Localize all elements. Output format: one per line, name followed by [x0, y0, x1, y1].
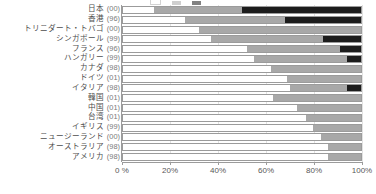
category-name: 日本: [88, 5, 104, 13]
bar-segment[interactable]: [313, 125, 361, 131]
bar-segment[interactable]: [285, 17, 361, 23]
bar-segment[interactable]: [328, 144, 361, 150]
category-name: シンガポール: [56, 35, 104, 43]
bar-segment[interactable]: [154, 7, 242, 13]
bar-segment[interactable]: [290, 85, 347, 91]
bar-segment[interactable]: [123, 154, 328, 160]
category-label: 中国(01): [88, 104, 120, 112]
bar-segment[interactable]: [347, 56, 361, 62]
category-year: (01): [107, 113, 120, 121]
bar-segment[interactable]: [123, 144, 328, 150]
bar-segment[interactable]: [123, 7, 154, 13]
category-name: イタリア: [72, 84, 104, 92]
x-axis-tick: [218, 162, 219, 165]
bar-segment[interactable]: [185, 17, 285, 23]
stacked-bar-chart: 日本(00)香港(96)トリニダート・トバゴ(00)シンガポール(99)フランス…: [0, 0, 376, 194]
category-name: 台湾: [88, 113, 104, 121]
category-name: トリニダート・トバゴ: [24, 25, 104, 33]
category-year: (01): [107, 74, 120, 82]
bar-segment[interactable]: [242, 7, 361, 13]
bar-segment[interactable]: [199, 27, 361, 33]
category-year: (98): [107, 153, 120, 161]
bar-segment[interactable]: [123, 134, 321, 140]
bar-segment[interactable]: [273, 95, 361, 101]
bar-row[interactable]: [122, 26, 362, 34]
bar-segment[interactable]: [123, 46, 247, 52]
category-label: ドイツ(01): [80, 74, 120, 82]
x-axis-tick-label: 40%: [210, 166, 226, 176]
category-year: (96): [107, 15, 120, 23]
category-name: 韓国: [88, 94, 104, 102]
bar-segment[interactable]: [306, 115, 361, 121]
category-year: (99): [107, 123, 120, 131]
category-year: (98): [107, 84, 120, 92]
bar-segment[interactable]: [321, 134, 361, 140]
plot-area: [122, 5, 362, 162]
category-name: 中国: [88, 104, 104, 112]
category-label: 韓国(01): [88, 94, 120, 102]
bar-row[interactable]: [122, 16, 362, 24]
category-year: (99): [107, 54, 120, 62]
bar-segment[interactable]: [123, 85, 290, 91]
category-label: カナダ(98): [80, 64, 120, 72]
category-name: オーストラリア: [48, 143, 104, 151]
category-label: ニュージーランド(00): [40, 133, 120, 141]
x-axis-tick: [362, 162, 363, 165]
category-label: 香港(96): [88, 15, 120, 23]
bar-row[interactable]: [122, 94, 362, 102]
category-axis-labels: 日本(00)香港(96)トリニダート・トバゴ(00)シンガポール(99)フランス…: [0, 5, 120, 162]
category-label: 日本(00): [88, 5, 120, 13]
bar-row[interactable]: [122, 65, 362, 73]
bar-segment[interactable]: [123, 76, 287, 82]
bar-segment[interactable]: [247, 46, 340, 52]
bar-row[interactable]: [122, 35, 362, 43]
bar-segment[interactable]: [287, 76, 361, 82]
bar-row[interactable]: [122, 55, 362, 63]
bar-row[interactable]: [122, 6, 362, 14]
bar-row[interactable]: [122, 75, 362, 83]
bar-segment[interactable]: [211, 36, 323, 42]
category-label: シンガポール(99): [56, 35, 120, 43]
bar-row[interactable]: [122, 45, 362, 53]
category-year: (00): [107, 5, 120, 13]
bar-segment[interactable]: [123, 36, 211, 42]
bar-segment[interactable]: [123, 17, 185, 23]
bar-segment[interactable]: [123, 105, 297, 111]
bar-segment[interactable]: [297, 105, 361, 111]
category-name: ドイツ: [80, 74, 104, 82]
category-name: フランス: [72, 45, 104, 53]
bar-segment[interactable]: [271, 66, 361, 72]
category-year: (01): [107, 94, 120, 102]
bar-segment[interactable]: [340, 46, 361, 52]
bar-row[interactable]: [122, 133, 362, 141]
bar-segment[interactable]: [123, 125, 313, 131]
category-label: アメリカ(98): [72, 153, 120, 161]
category-name: アメリカ: [72, 153, 104, 161]
category-label: イタリア(98): [72, 84, 120, 92]
bar-segment[interactable]: [123, 56, 254, 62]
bar-segment[interactable]: [123, 66, 271, 72]
category-label: ハンガリー(99): [64, 54, 120, 62]
bar-segment[interactable]: [123, 95, 273, 101]
x-axis-tick-label: 80%: [306, 166, 322, 176]
category-year: (99): [107, 35, 120, 43]
category-name: 香港: [88, 15, 104, 23]
bar-segment[interactable]: [347, 85, 361, 91]
bar-segment[interactable]: [328, 154, 361, 160]
bar-segment[interactable]: [123, 27, 199, 33]
bar-segment[interactable]: [123, 115, 306, 121]
category-label: トリニダート・トバゴ(00): [24, 25, 120, 33]
bar-row[interactable]: [122, 143, 362, 151]
x-axis-tick-label: 60%: [258, 166, 274, 176]
bar-row[interactable]: [122, 114, 362, 122]
category-name: ニュージーランド: [40, 133, 104, 141]
bar-segment[interactable]: [323, 36, 361, 42]
category-label: イギリス(99): [72, 123, 120, 131]
x-axis-tick: [122, 162, 123, 165]
bar-row[interactable]: [122, 153, 362, 161]
bar-row[interactable]: [122, 124, 362, 132]
bar-row[interactable]: [122, 104, 362, 112]
bar-segment[interactable]: [254, 56, 347, 62]
bar-row[interactable]: [122, 84, 362, 92]
category-name: カナダ: [80, 64, 104, 72]
